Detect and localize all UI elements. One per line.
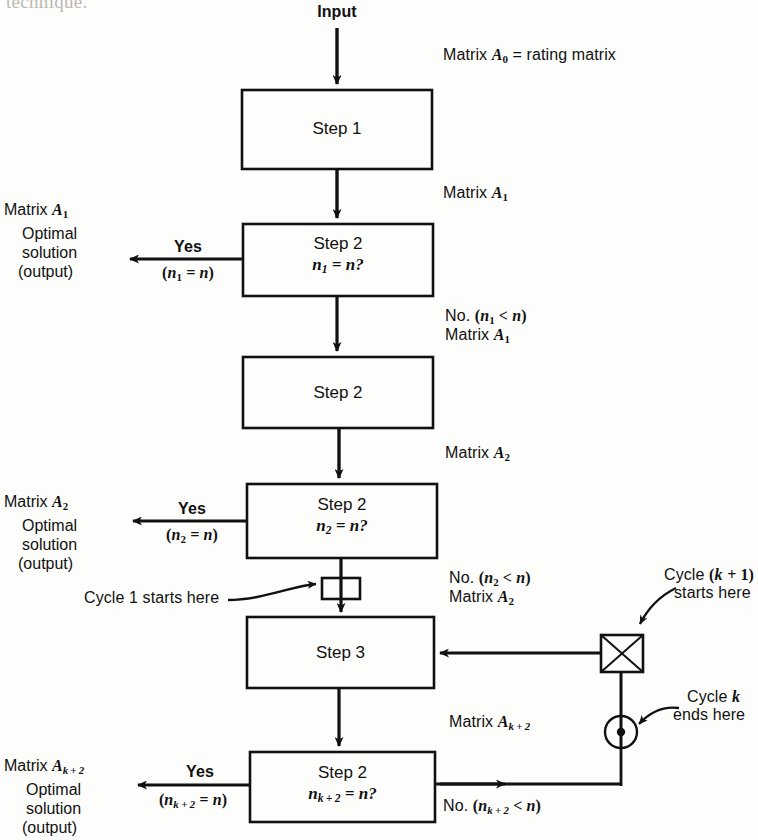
edge-label-cond-n1-eq: (n1 = n) <box>133 263 243 287</box>
edge-label-matrix-a1-second: Matrix A1 <box>445 325 510 349</box>
flowchart-figure: technique. <box>0 0 758 840</box>
output-block-2-line2: Optimal <box>4 516 77 535</box>
edge-label-cond-n2-eq: (n2 = n) <box>137 525 247 549</box>
edge-label-matrix-a2-second: Matrix A2 <box>449 587 514 611</box>
node-step2d-label: Step 2 nk + 2 = n? <box>250 762 435 809</box>
node-step2a-title: Step 2 <box>313 234 362 253</box>
edge-label-cond-nk2-eq: (nk + 2 = n) <box>128 790 258 814</box>
node-step2a-condition: n1 = n? <box>312 255 363 274</box>
node-step2d-condition: nk + 2 = n? <box>308 784 376 803</box>
output-block-1-line4: (output) <box>4 262 77 281</box>
output-block-3-line1: Matrix Ak + 2 <box>4 756 84 780</box>
annotation-cycle-k1-starts-here: Cycle (k + 1) starts here <box>664 566 754 602</box>
edge-label-matrix-ak2: Matrix Ak + 2 <box>449 712 530 736</box>
node-step2b-label: Step 2 <box>243 382 433 403</box>
output-block-1: Matrix A1 Optimal solution (output) <box>4 200 77 281</box>
output-block-3-line3: solution <box>4 799 84 818</box>
input-label: Input <box>297 2 377 21</box>
output-block-3: Matrix Ak + 2 Optimal solution (output) <box>4 756 84 837</box>
annotation-cycle-k-ends-here: Cycle k ends here <box>673 688 745 724</box>
output-block-2-line1: Matrix A2 <box>4 492 77 516</box>
output-block-2: Matrix A2 Optimal solution (output) <box>4 492 77 573</box>
node-step1-label: Step 1 <box>242 118 432 139</box>
node-step2c-condition: n2 = n? <box>316 516 367 535</box>
node-step2c-label: Step 2 n2 = n? <box>247 494 437 541</box>
output-block-1-line2: Optimal <box>4 224 77 243</box>
node-step3-label: Step 3 <box>247 642 434 663</box>
node-step2a-label: Step 2 n1 = n? <box>243 233 433 280</box>
annotation-cycle-k-line2: ends here <box>673 706 745 724</box>
annotation-cycle1-starts-here: Cycle 1 starts here <box>84 588 219 607</box>
annotation-cycle-k1-line1: Cycle (k + 1) <box>664 566 754 584</box>
node-step2c-title: Step 2 <box>317 495 366 514</box>
output-block-2-line3: solution <box>4 535 77 554</box>
edge-label-yes-3: Yes <box>160 762 240 781</box>
output-block-3-line2: Optimal <box>4 780 84 799</box>
edge-label-matrix-a0: Matrix A0 = rating matrix <box>443 45 616 69</box>
annotation-cycle-k-line1: Cycle k <box>673 688 745 706</box>
edge-label-yes-1: Yes <box>148 237 228 256</box>
edge-label-no-nk2: No. (nk + 2 < n) <box>443 796 541 820</box>
output-block-2-line4: (output) <box>4 554 77 573</box>
node-step2d-title: Step 2 <box>318 763 367 782</box>
output-block-3-line4: (output) <box>4 818 84 837</box>
edge-label-matrix-a1: Matrix A1 <box>443 183 508 207</box>
output-block-1-line1: Matrix A1 <box>4 200 77 224</box>
output-block-1-line3: solution <box>4 243 77 262</box>
edge-label-yes-2: Yes <box>152 499 232 518</box>
edge-label-matrix-a2: Matrix A2 <box>445 443 510 467</box>
annotation-cycle-k1-line2: starts here <box>664 584 754 602</box>
